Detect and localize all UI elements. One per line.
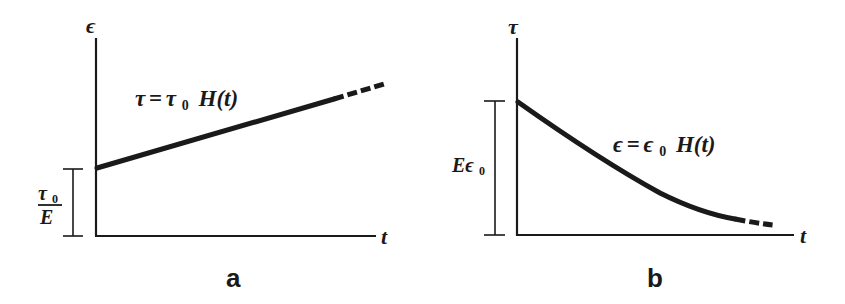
y-axis-label: ϵ — [86, 13, 96, 38]
panel-b: τ t ϵ = ϵ 0 H(t) Eϵ 0 b — [451, 14, 807, 293]
panel-caption-a: a — [226, 263, 241, 293]
initial-stress-bracket — [484, 101, 505, 235]
panel-a: ϵ t τ = τ 0 H(t) τ 0 E — [38, 13, 388, 293]
bracket-label: Eϵ 0 — [451, 154, 485, 178]
creep-curve-extension — [334, 84, 384, 99]
curve-label: ϵ = ϵ 0 H(t) — [613, 132, 716, 161]
elastic-strain-bracket — [63, 169, 83, 236]
bracket-label-fraction: τ 0 E — [38, 182, 62, 228]
diagram-canvas: ϵ t τ = τ 0 H(t) τ 0 E — [0, 0, 845, 304]
x-axis-label: t — [381, 224, 388, 249]
fraction-numerator: τ 0 — [38, 182, 58, 206]
fraction-denominator: E — [39, 206, 53, 228]
curve-label: τ = τ 0 H(t) — [135, 86, 238, 115]
relaxation-curve-extension — [735, 219, 773, 225]
relaxation-curve — [518, 102, 735, 219]
x-axis-label: t — [800, 223, 807, 248]
panel-caption-b: b — [647, 263, 663, 293]
y-axis-label: τ — [508, 14, 519, 39]
